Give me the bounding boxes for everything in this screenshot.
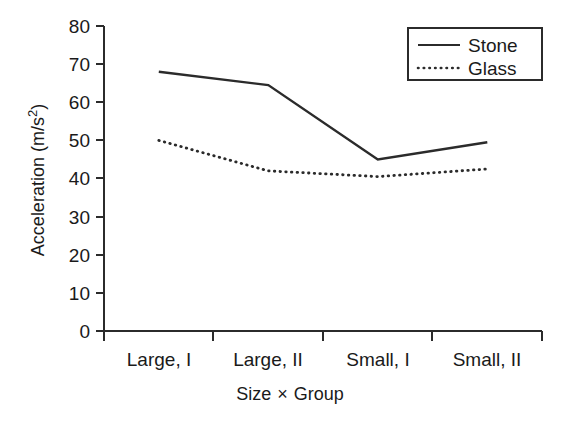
svg-text:Size×Group: Size×Group (236, 384, 344, 404)
y-tick-label-70: 70 (69, 54, 90, 75)
x-axis-ticks (104, 331, 542, 341)
chart-canvas: 80 70 60 50 40 30 20 10 0 Large, I Large… (0, 0, 566, 426)
y-tick-label-80: 80 (69, 16, 90, 37)
y-tick-label-60: 60 (69, 92, 90, 113)
y-tick-label-50: 50 (69, 130, 90, 151)
x-axis-title-part1: Size (236, 384, 271, 404)
legend-label-stone: Stone (468, 35, 518, 56)
y-tick-label-20: 20 (69, 245, 90, 266)
x-axis-title-part2: Group (294, 384, 344, 404)
x-tick-label-small-ii: Small, II (453, 349, 522, 370)
y-tick-label-10: 10 (69, 283, 90, 304)
acceleration-line-chart: 80 70 60 50 40 30 20 10 0 Large, I Large… (0, 0, 566, 426)
y-axis-title-close: ) (28, 104, 48, 110)
legend-label-glass: Glass (468, 58, 517, 79)
x-tick-label-small-i: Small, I (346, 349, 409, 370)
y-axis-title-superscript: 2 (25, 110, 40, 117)
series-line-glass (159, 140, 488, 176)
y-tick-label-0: 0 (79, 321, 90, 342)
y-axis-ticks (96, 26, 104, 331)
chart-legend: Stone Glass (408, 28, 542, 80)
y-axis-title: Acceleration (m/s2) (25, 104, 48, 256)
x-axis-title-times: × (277, 384, 288, 404)
x-tick-label-large-i: Large, I (127, 349, 191, 370)
y-tick-label-30: 30 (69, 207, 90, 228)
x-axis-title: Size×Group (236, 384, 344, 404)
y-axis-title-main: Acceleration (m/s (28, 117, 48, 256)
x-tick-label-large-ii: Large, II (233, 349, 303, 370)
series-line-stone (159, 72, 488, 160)
y-tick-label-40: 40 (69, 168, 90, 189)
svg-text:Acceleration (m/s2): Acceleration (m/s2) (25, 104, 48, 256)
